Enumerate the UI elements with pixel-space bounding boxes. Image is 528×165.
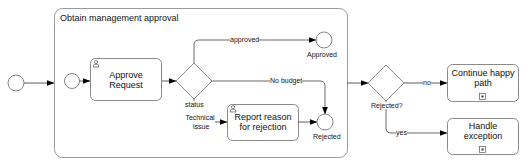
end-event-approved[interactable] [316,32,332,48]
subprocess-marker-icon [480,94,486,100]
gateway-rejected[interactable] [368,65,404,101]
subprocess-title: Obtain management approval [60,13,179,23]
task-approve-request-label: Approve Request [92,62,160,100]
end-event-rejected[interactable] [317,114,333,130]
task-handle-exception-label: Handle exception [449,120,517,144]
end-event-rejected-label: Rejected [313,133,341,140]
flow-label-no: no [423,79,431,86]
flow-label-approved: approved [230,36,259,43]
start-event[interactable] [8,75,24,91]
flow-label-no-budget: No budget [270,77,302,84]
gateway-rejected-label: Rejected? [371,102,403,109]
flow-label-issue: issue [193,123,209,130]
flow-label-technical: Technical [184,114,216,121]
gateway-status-label: status [185,101,204,108]
subprocess-marker-icon [480,147,486,153]
task-report-reason-label: Report reason for rejection [229,106,297,140]
gateway-status[interactable] [176,63,212,99]
inner-start-event[interactable] [65,74,80,89]
flow-label-yes: yes [396,129,407,136]
end-event-approved-label: Approved [307,51,337,58]
flow-approved [194,40,316,63]
task-continue-happy-path-label: Continue happy path [449,66,517,92]
